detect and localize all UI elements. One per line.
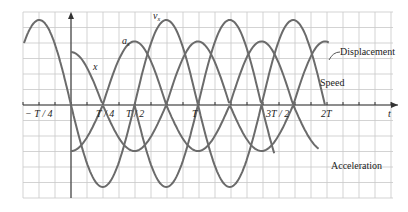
x-axis-arrow-icon bbox=[391, 102, 398, 108]
tick-label-quarter: T / 4 bbox=[96, 108, 114, 119]
a-curve-label: ax bbox=[122, 35, 130, 47]
tick-label-2T: 2T bbox=[321, 108, 333, 119]
tick-label-neg-quarter: − T / 4 bbox=[25, 108, 52, 119]
a-subscript: x bbox=[126, 41, 130, 47]
tick-label-3half: 3T / 2 bbox=[265, 108, 289, 119]
x-curve-label: x bbox=[92, 61, 98, 72]
displacement-label: Displacement bbox=[340, 46, 395, 57]
y-axis-arrow-icon bbox=[68, 12, 74, 19]
chart-canvas: x ax vx Displacement Speed Acceleration … bbox=[0, 0, 408, 212]
speed-label: Speed bbox=[320, 77, 344, 88]
speed-curve-left bbox=[24, 20, 71, 105]
curves bbox=[24, 20, 329, 187]
tick-label-half: T / 2 bbox=[126, 108, 144, 119]
v-subscript: x bbox=[156, 16, 160, 22]
tick-label-T: T bbox=[192, 108, 199, 119]
t-axis-label: t bbox=[388, 108, 391, 119]
acceleration-label: Acceleration bbox=[331, 160, 382, 171]
